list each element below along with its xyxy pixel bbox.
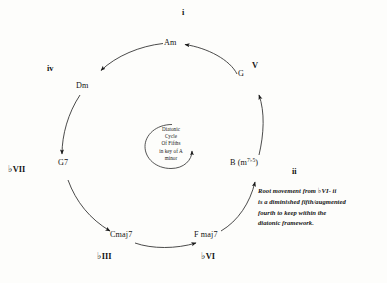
annotation-line-1-a: Root movement from (258, 187, 318, 194)
annotation-line-3: fourth to keep within the (258, 208, 382, 219)
annotation-line-1-b: VI- ii (322, 187, 337, 194)
annotation-note: Root movement from ♭VI- ii is a diminish… (258, 185, 382, 229)
center-caption-line-1: Diatonic (150, 126, 192, 133)
diagram-canvas: Am G B (m7♭5) F maj7 Cmaj7 G7 Dm i V ii … (0, 0, 387, 283)
center-caption-line-4: in key of A (150, 148, 192, 155)
chord-label-dm: Dm (76, 82, 88, 91)
degree-label-ii: ii (292, 168, 297, 177)
arrow-g-to-am (185, 45, 237, 75)
degree-label-flat-vi: ♭VI (201, 252, 215, 262)
degree-label-flat-iii: ♭III (97, 252, 112, 262)
arrow-g7-to-cmaj7 (68, 180, 110, 231)
center-caption: Diatonic Cycle Of Fifths in key of A min… (150, 126, 192, 162)
chord-label-bm7b5-tail: ) (255, 158, 258, 167)
chord-label-bm7b5-superscript: 7♭5 (247, 157, 255, 163)
annotation-line-4: diatonic framework. (258, 218, 382, 229)
arrow-bm7b5-to-g (259, 95, 263, 155)
chord-label-bm7b5: B (m7♭5) (230, 158, 258, 168)
chord-label-fmaj7: F maj7 (194, 231, 218, 240)
arrow-dm-to-g7 (62, 95, 80, 154)
chord-label-bm7b5-head: B (m (230, 158, 247, 167)
chord-label-g7: G7 (58, 159, 68, 168)
degree-label-flat-vii: ♭VII (8, 165, 25, 175)
degree-label-flat-vii-text: VII (13, 165, 26, 174)
degree-label-v: V (252, 62, 258, 71)
degree-label-flat-iii-text: III (102, 252, 112, 261)
chord-label-g: G (238, 70, 244, 79)
degree-label-iv: iv (47, 65, 54, 74)
center-caption-line-2: Cycle (150, 133, 192, 140)
degree-label-i: i (182, 9, 184, 18)
arrow-fmaj7-to-bm7b5 (221, 182, 255, 231)
degree-label-flat-vi-text: VI (206, 252, 215, 261)
arrow-cmaj7-to-fmaj7 (135, 243, 196, 248)
annotation-line-2: is a diminished fifth/augmented (258, 197, 382, 208)
annotation-line-1: Root movement from ♭VI- ii (258, 185, 382, 197)
arrow-am-to-dm (101, 44, 163, 71)
chord-label-am: Am (164, 39, 176, 48)
center-caption-line-5: minor (150, 155, 192, 162)
arrow-arcs-layer (0, 0, 387, 283)
center-caption-line-3: Of Fifths (150, 140, 192, 147)
chord-label-cmaj7: Cmaj7 (110, 231, 132, 240)
